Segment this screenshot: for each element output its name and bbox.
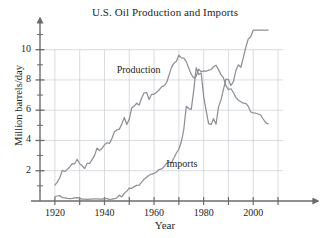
chart-figure: U.S. Oil Production and Imports Million …: [0, 0, 326, 238]
x-tick-label: 1960: [137, 207, 171, 218]
chart-title: U.S. Oil Production and Imports: [70, 6, 260, 18]
x-tick-label: 1980: [187, 207, 221, 218]
x-tick-label: 2000: [236, 207, 270, 218]
y-tick-label: 6: [9, 103, 31, 114]
y-tick-label: 8: [9, 73, 31, 84]
axis-ticks: [36, 35, 279, 205]
y-tick-label: 2: [9, 164, 31, 175]
series-line-production: [55, 55, 268, 185]
series-line-imports: [55, 30, 268, 199]
chart-plot-area: [0, 0, 326, 238]
axis-lines: [31, 18, 318, 201]
x-axis-label: Year: [120, 219, 210, 231]
series-annotation-imports: Imports: [166, 158, 197, 169]
gridlines: [40, 50, 283, 201]
y-tick-label: 10: [9, 43, 31, 54]
x-tick-label: 1920: [38, 207, 72, 218]
x-tick-label: 1940: [87, 207, 121, 218]
series-annotation-production: Production: [117, 64, 161, 75]
y-tick-label: 4: [9, 133, 31, 144]
data-series: [55, 30, 268, 199]
